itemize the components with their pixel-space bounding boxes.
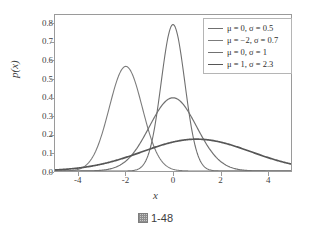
legend-line-swatch: [208, 64, 223, 65]
y-axis-tick-label: 0.2: [13, 130, 53, 139]
x-axis-tick-mark: [221, 172, 222, 176]
x-axis-tick-mark: [268, 172, 269, 176]
y-axis-tick-label: 0.1: [13, 149, 53, 158]
legend-item: μ = 0, σ = 0.5: [204, 22, 291, 34]
figure-caption: 1-48: [0, 212, 311, 224]
curve-series-4: [55, 139, 291, 170]
x-axis-tick-label: 2: [209, 176, 233, 185]
legend-item: μ = 1, σ = 2.3: [204, 58, 291, 70]
x-axis-label: x: [0, 189, 311, 201]
y-axis-tick-label: 0.0: [13, 168, 53, 177]
legend-line-swatch: [208, 28, 223, 29]
legend-item: μ = 0, σ = 1: [204, 46, 291, 58]
legend-line-swatch: [208, 40, 223, 41]
y-axis-tick-label: 0.7: [13, 37, 53, 46]
legend-item-label: μ = 0, σ = 0.5: [227, 24, 273, 33]
figure-box-glyph-icon: [138, 213, 148, 223]
legend-item-label: μ = 0, σ = 1: [227, 48, 267, 57]
curve-series-2: [55, 66, 291, 171]
legend-item: μ = −2, σ = 0.7: [204, 34, 291, 46]
legend: μ = 0, σ = 0.5μ = −2, σ = 0.7μ = 0, σ = …: [203, 18, 292, 74]
x-axis-tick-mark: [78, 172, 79, 176]
x-axis-tick-label: -4: [66, 176, 90, 185]
x-axis-tick-mark: [125, 172, 126, 176]
x-axis-tick-label: 0: [161, 176, 185, 185]
x-axis-tick-label: 4: [256, 176, 280, 185]
x-axis-tick-label: -2: [113, 176, 137, 185]
y-axis-tick-mark: [50, 172, 54, 173]
legend-item-label: μ = −2, σ = 0.7: [227, 36, 278, 45]
x-axis-tick-mark: [173, 172, 174, 176]
y-axis-tick-label: 0.4: [13, 93, 53, 102]
y-axis-label: p(x): [8, 60, 20, 78]
y-axis-tick-label: 0.3: [13, 112, 53, 121]
legend-line-swatch: [208, 52, 223, 53]
figure-caption-text: 1-48: [151, 212, 173, 224]
y-axis-tick-label: 0.8: [13, 19, 53, 28]
figure-container: 0.00.10.20.30.40.50.60.70.8 p(x) -4-2024…: [0, 0, 311, 241]
legend-item-label: μ = 1, σ = 2.3: [227, 60, 273, 69]
